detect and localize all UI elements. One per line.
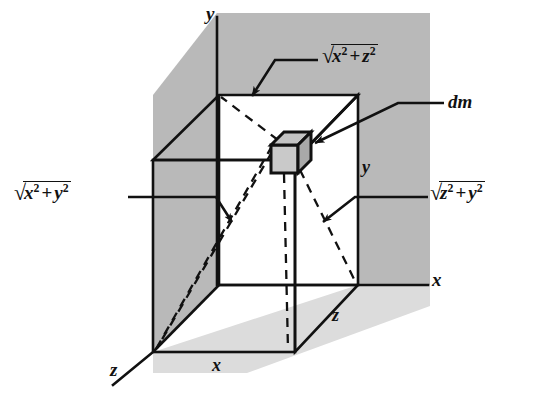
callout-label-dm: dm [448,92,472,111]
radical-body-xy: x2+y2 [23,181,71,202]
callout-label-radius-xz: √x2+z2 [322,44,378,67]
axis-label-z: z [110,360,117,379]
dimension-label-y: y [362,158,370,176]
radicand-second-xy: y [54,182,62,203]
axis-label-x: x [432,270,442,289]
z-axis-line [113,352,153,385]
dimension-label-x: x [212,356,221,374]
radicand-second-xz: z [362,45,369,66]
radicand-second-exp-zy: 2 [477,182,483,195]
radicand-plus-xz: + [347,45,362,66]
radicand-plus-zy: + [453,182,468,203]
dash-to-back-top-left [221,97,278,140]
figure-root: y x z x z y dm √x2+z2 √x2+y2 √z2+y2 [0,0,541,398]
dimension-label-z: z [332,306,339,324]
callout-label-radius-xy: √x2+y2 [14,181,71,204]
radical-body-zy: z2+y2 [439,181,484,202]
radicand-second-exp-xy: 2 [63,182,69,195]
axis-label-y: y [206,4,214,23]
radicand-first-xy: x [24,182,34,203]
radical-body-xz: x2+z2 [331,44,378,65]
radicand-first-xz: x [332,45,342,66]
dm-cube-front-face [271,145,298,173]
shaded-planes [153,13,430,373]
dash-to-origin [300,170,356,283]
dm-cube [271,132,311,173]
radicand-second-exp-xz: 2 [370,45,376,58]
callout-label-radius-zy: √z2+y2 [430,181,485,204]
radicand-second-zy: y [468,182,476,203]
radicand-plus-xy: + [39,182,54,203]
